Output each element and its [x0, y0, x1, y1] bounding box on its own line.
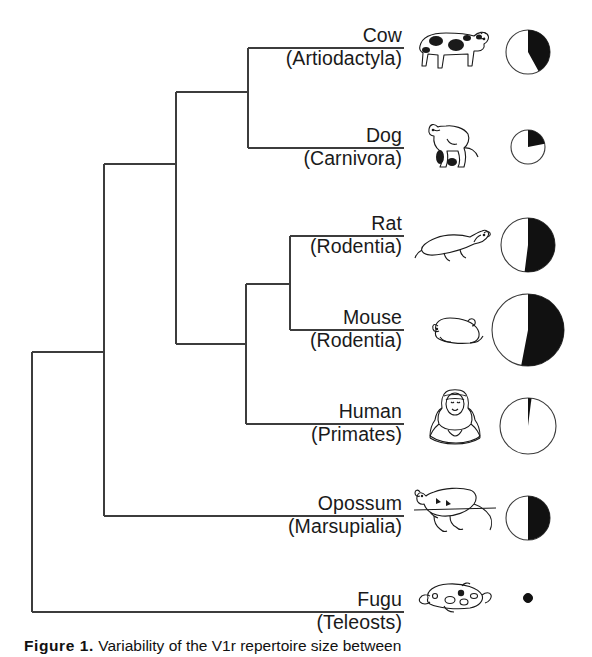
taxon-label-dog: Dog (Carnivora) — [174, 124, 404, 170]
taxon-common-name: Rat — [174, 212, 404, 235]
taxon-order-name: (Rodentia) — [174, 235, 404, 258]
taxon-label-human: Human (Primates) — [174, 400, 404, 446]
cow-illustration — [414, 24, 492, 76]
taxon-order-name: (Rodentia) — [174, 329, 404, 352]
taxon-common-name: Cow — [174, 24, 404, 47]
taxon-order-name: (Carnivora) — [174, 147, 404, 170]
taxon-order-name: (Primates) — [174, 423, 404, 446]
fugu-illustration — [418, 578, 492, 616]
figure-caption-text: Variability of the V1r repertoire size b… — [94, 637, 401, 654]
taxon-label-mouse: Mouse (Rodentia) — [174, 306, 404, 352]
pie-chart-dog — [509, 128, 547, 166]
pie-chart-opossum — [504, 494, 552, 542]
figure-caption-label: Figure 1. — [24, 637, 94, 654]
opossum-illustration — [414, 482, 496, 534]
taxon-order-name: (Marsupialia) — [174, 515, 404, 538]
taxon-common-name: Dog — [174, 124, 404, 147]
taxon-common-name: Opossum — [174, 492, 404, 515]
pie-chart-cow — [504, 28, 552, 76]
taxon-common-name: Fugu — [174, 588, 404, 611]
taxon-label-fugu: Fugu (Teleosts) — [174, 588, 404, 634]
mouse-illustration — [426, 312, 486, 350]
figure-container: Cow (Artiodactyla) Dog (Carnivora) Rat (… — [0, 0, 592, 657]
taxon-common-name: Human — [174, 400, 404, 423]
taxon-common-name: Mouse — [174, 306, 404, 329]
pie-chart-mouse — [490, 292, 566, 368]
taxon-order-name: (Teleosts) — [174, 611, 404, 634]
taxon-order-name: (Artiodactyla) — [174, 47, 404, 70]
pie-chart-rat — [499, 216, 557, 274]
taxon-label-opossum: Opossum (Marsupialia) — [174, 492, 404, 538]
taxon-label-cow: Cow (Artiodactyla) — [174, 24, 404, 70]
human-illustration — [424, 386, 486, 452]
rat-illustration — [414, 222, 494, 264]
dog-illustration — [420, 117, 482, 173]
pie-chart-fugu — [518, 588, 538, 608]
figure-caption: Figure 1. Variability of the V1r reperto… — [24, 636, 584, 656]
pie-chart-human — [498, 396, 558, 456]
taxon-label-rat: Rat (Rodentia) — [174, 212, 404, 258]
